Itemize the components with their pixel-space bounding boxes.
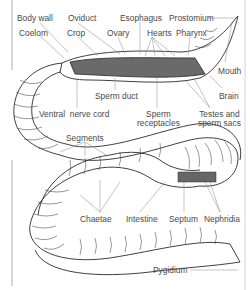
- label-intestine: Intestine: [126, 215, 158, 224]
- label-brain: Brain: [219, 92, 239, 101]
- label-ventral-nerve-cord: Ventral nerve cord: [39, 110, 109, 119]
- label-oviduct: Oviduct: [68, 14, 96, 23]
- label-septum: Septum: [169, 215, 198, 224]
- label-crop: Crop: [67, 29, 85, 38]
- label-esophagus: Esophagus: [120, 14, 162, 23]
- earthworm-illustration: [0, 0, 250, 290]
- label-testes-sperm-sacs: Testes and sperm sacs: [198, 110, 241, 128]
- label-pharynx: Pharynx: [176, 29, 207, 38]
- label-coelom: Coelom: [19, 29, 48, 38]
- earthworm-diagram: Body wall Oviduct Esophagus Prostomium C…: [0, 0, 250, 290]
- label-chaetae: Chaetae: [80, 215, 112, 224]
- label-prostomium: Prostomium: [169, 14, 214, 23]
- nephridia-window: [178, 172, 216, 182]
- label-pygidium: Pygidium: [153, 266, 187, 275]
- label-mouth: Mouth: [218, 67, 241, 76]
- label-sperm-duct: Sperm duct: [95, 92, 138, 101]
- label-ovary: Ovary: [107, 29, 129, 38]
- label-nephridia: Nephridia: [204, 215, 240, 224]
- label-segments: Segments: [66, 134, 104, 143]
- label-sperm-receptacles: Sperm receptacles: [137, 110, 180, 128]
- label-body-wall: Body wall: [17, 14, 53, 23]
- label-hearts: Hearts: [147, 29, 172, 38]
